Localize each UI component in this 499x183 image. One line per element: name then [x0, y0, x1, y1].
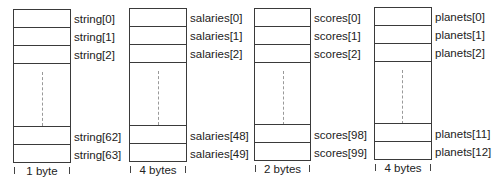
cell-divider [375, 25, 431, 26]
element-size-label: 2 bytes [254, 163, 311, 175]
ellipsis-dotted-line [158, 71, 159, 125]
array-memory-box [374, 7, 432, 160]
element-size-label: 4 bytes [129, 164, 187, 176]
cell-divider [255, 124, 310, 125]
element-size-label: 4 bytes [374, 162, 432, 174]
width-tick-right [185, 166, 186, 173]
element-size-label: 1 byte [13, 165, 71, 177]
cell-divider [14, 144, 70, 145]
element-label: salaries[1] [190, 30, 242, 42]
element-label: salaries[48] [190, 130, 249, 142]
array-memory-box [254, 8, 311, 161]
element-label: scores[2] [314, 48, 361, 60]
element-label: planets[1] [435, 29, 485, 41]
element-label: string[63] [74, 149, 121, 161]
element-label: scores[0] [314, 12, 361, 24]
cell-divider [14, 126, 70, 127]
array-memory-box [13, 9, 71, 163]
element-label: string[2] [74, 49, 115, 61]
element-label: salaries[2] [190, 48, 242, 60]
cell-divider [14, 45, 70, 46]
cell-divider [130, 143, 186, 144]
cell-divider [375, 43, 431, 44]
width-tick-right [430, 164, 431, 171]
cell-divider [255, 44, 310, 45]
cell-divider [375, 141, 431, 142]
cell-divider [14, 63, 70, 64]
element-label: planets[2] [435, 47, 485, 59]
width-tick-right [309, 165, 310, 172]
element-label: planets[12] [435, 146, 491, 158]
cell-divider [255, 142, 310, 143]
ellipsis-dotted-line [42, 72, 43, 126]
cell-divider [375, 123, 431, 124]
element-label: planets[11] [435, 128, 490, 140]
element-label: scores[1] [314, 30, 361, 42]
cell-divider [255, 62, 310, 63]
cell-divider [130, 26, 186, 27]
element-label: string[62] [74, 131, 121, 143]
element-label: string[0] [74, 13, 115, 25]
cell-divider [130, 44, 186, 45]
cell-divider [130, 125, 186, 126]
cell-divider [375, 61, 431, 62]
element-label: salaries[49] [190, 148, 249, 160]
element-label: scores[99] [314, 147, 367, 159]
element-label: salaries[0] [190, 12, 242, 24]
ellipsis-dotted-line [402, 70, 403, 124]
element-label: scores[98] [314, 129, 367, 141]
element-label: string[1] [74, 31, 115, 43]
cell-divider [255, 26, 310, 27]
cell-divider [130, 62, 186, 63]
width-tick-right [69, 167, 70, 174]
ellipsis-dotted-line [283, 71, 284, 125]
array-memory-box [129, 8, 187, 162]
cell-divider [14, 27, 70, 28]
element-label: planets[0] [435, 11, 485, 23]
